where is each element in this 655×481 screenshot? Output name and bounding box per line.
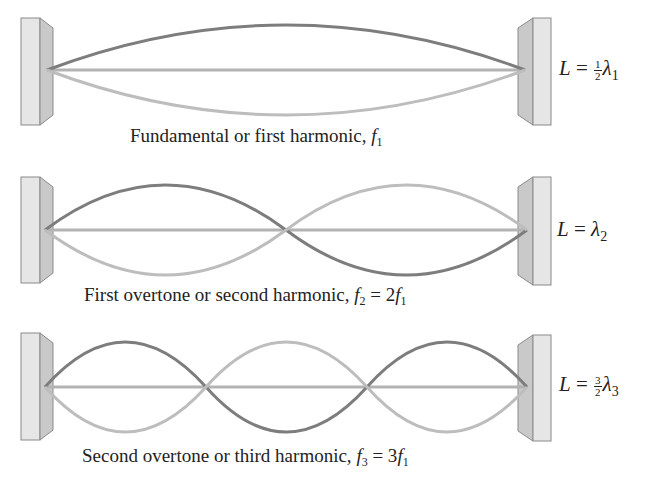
- formula-lambda-subscript: 1: [612, 68, 619, 83]
- caption-equals: = 3: [368, 445, 398, 466]
- formula-lambda-subscript: 3: [612, 384, 619, 399]
- formula-length-symbol: L: [557, 217, 569, 241]
- formula-fraction: 32: [594, 375, 602, 398]
- string-lower: [47, 70, 525, 115]
- formula-length-symbol: L: [559, 372, 571, 396]
- formula-second-harmonic: L = λ2: [557, 219, 607, 244]
- panel-second-harmonic: [21, 177, 551, 285]
- formula-equals: =: [569, 217, 591, 241]
- fraction-numerator: 1: [594, 59, 602, 71]
- caption-second-harmonic: First overtone or second harmonic, f2 = …: [84, 285, 406, 307]
- fraction-denominator: 2: [594, 71, 602, 82]
- caption-frequency-subscript: 1: [376, 135, 382, 149]
- formula-lambda-symbol: λ: [603, 372, 612, 396]
- formula-lambda-symbol: λ: [603, 56, 612, 80]
- formula-equals: =: [571, 372, 593, 396]
- caption-text: Second overtone or third harmonic,: [82, 445, 356, 466]
- fraction-denominator: 2: [594, 387, 602, 398]
- formula-equals: =: [571, 56, 593, 80]
- panel-first-harmonic: [21, 18, 551, 125]
- fraction-numerator: 3: [594, 375, 602, 387]
- caption-base-frequency-subscript: 1: [403, 455, 409, 469]
- formula-length-symbol: L: [559, 56, 571, 80]
- caption-equals: = 2: [365, 284, 395, 305]
- caption-base-frequency-subscript: 1: [400, 294, 406, 308]
- string-upper: [47, 25, 525, 70]
- formula-third-harmonic: L = 32λ3: [559, 374, 619, 399]
- caption-text: First overtone or second harmonic,: [84, 284, 354, 305]
- formula-lambda-subscript: 2: [600, 229, 607, 244]
- caption-third-harmonic: Second overtone or third harmonic, f3 = …: [82, 446, 409, 468]
- panel-third-harmonic: [21, 333, 551, 441]
- caption-first-harmonic: Fundamental or first harmonic, f1: [130, 126, 382, 148]
- formula-lambda-symbol: λ: [591, 217, 600, 241]
- formula-fraction: 12: [594, 59, 602, 82]
- caption-text: Fundamental or first harmonic,: [130, 125, 371, 146]
- formula-first-harmonic: L = 12λ1: [559, 58, 619, 83]
